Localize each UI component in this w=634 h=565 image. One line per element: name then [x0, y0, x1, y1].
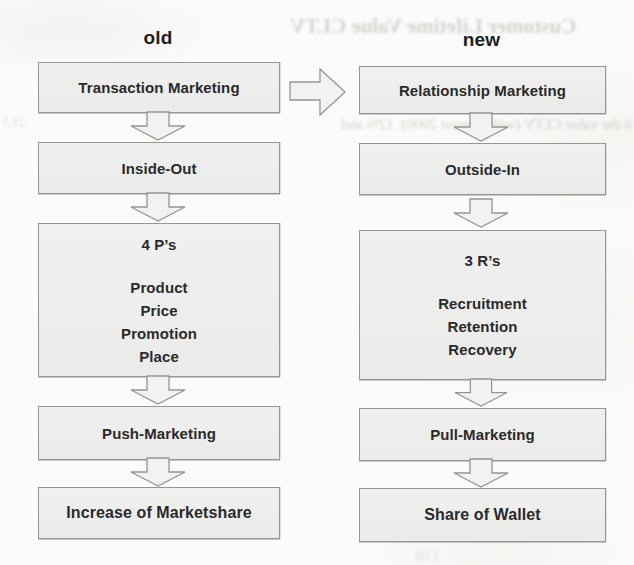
down-arrow-icon — [453, 459, 509, 488]
box-label: 4 P’s — [121, 233, 197, 256]
column-header-old: old — [38, 27, 278, 51]
box-content: 3 R’s Recruitment Retention Recovery — [438, 249, 527, 361]
box-label: Increase of Marketshare — [66, 504, 252, 522]
box-content: 4 P’s Product Price Promotion Place — [121, 233, 197, 368]
down-arrow-icon — [130, 458, 186, 487]
spacer — [121, 256, 197, 276]
box-label: Share of Wallet — [424, 506, 540, 524]
right-arrow-icon — [289, 66, 347, 118]
box-label: Transaction Marketing — [78, 79, 239, 96]
box-label: Inside-Out — [121, 160, 196, 177]
list-item: Recruitment — [438, 292, 527, 315]
list-item: Retention — [438, 315, 527, 338]
box-inside-out: Inside-Out — [38, 142, 280, 194]
down-arrow-icon — [130, 376, 186, 405]
box-label: Pull-Marketing — [430, 426, 535, 443]
box-increase-of-marketshare: Increase of Marketshare — [38, 487, 280, 539]
box-label: Outside-In — [445, 161, 520, 178]
ghost-text: 1.08 — [415, 549, 440, 565]
list-item: Recovery — [438, 338, 527, 361]
list-item: Price — [121, 299, 197, 322]
down-arrow-icon — [130, 193, 186, 222]
ghost-text: 21.1 — [2, 114, 25, 130]
down-arrow-icon — [130, 112, 186, 141]
scanned-page: Customer Lifetime Value CLTV it the valu… — [0, 0, 634, 565]
box-push-marketing: Push-Marketing — [38, 406, 280, 460]
spacer — [438, 272, 527, 292]
box-3rs: 3 R’s Recruitment Retention Recovery — [359, 230, 606, 380]
list-item: Promotion — [121, 322, 197, 345]
box-4ps: 4 P’s Product Price Promotion Place — [38, 223, 280, 377]
box-label: 3 R’s — [438, 249, 527, 272]
list-item: Product — [121, 276, 197, 299]
box-label: Push-Marketing — [102, 425, 216, 442]
box-relationship-marketing: Relationship Marketing — [359, 66, 606, 114]
column-header-new: new — [359, 29, 604, 53]
box-outside-in: Outside-In — [359, 143, 606, 195]
down-arrow-icon — [453, 199, 509, 228]
list-item: Place — [121, 345, 197, 368]
box-label: Relationship Marketing — [399, 82, 566, 99]
down-arrow-icon — [453, 113, 509, 142]
box-share-of-wallet: Share of Wallet — [359, 488, 606, 542]
box-pull-marketing: Pull-Marketing — [359, 408, 606, 461]
box-transaction-marketing: Transaction Marketing — [38, 62, 280, 113]
down-arrow-icon — [453, 379, 509, 407]
